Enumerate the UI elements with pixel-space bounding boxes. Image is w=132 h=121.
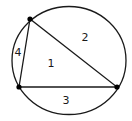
vertex-top: [27, 16, 32, 21]
region-label-3: 3: [63, 94, 70, 107]
region-label-2: 2: [82, 31, 89, 44]
inscribed-triangle: [19, 19, 117, 87]
vertex-bottom-left: [16, 84, 21, 89]
circle-triangle-diagram: 1 2 3 4: [0, 0, 132, 121]
vertex-right: [114, 84, 119, 89]
region-label-4: 4: [15, 46, 22, 59]
region-label-1: 1: [48, 57, 55, 70]
